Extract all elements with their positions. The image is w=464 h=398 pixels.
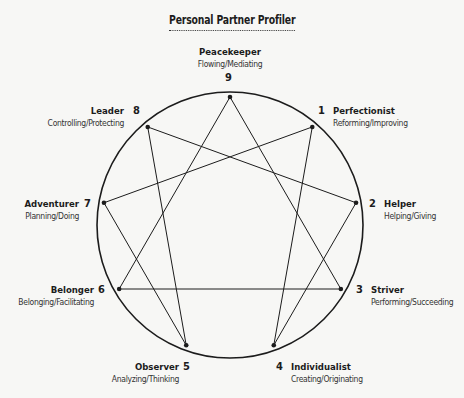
point-2-number: 2: [369, 197, 376, 210]
point-8-label: Leader Controlling/Protecting: [48, 105, 124, 129]
point-desc: Performing/Succeeding: [371, 296, 453, 308]
point-7-dot: [102, 200, 107, 205]
point-desc: Helping/Giving: [384, 210, 436, 222]
point-9-number: 9: [225, 71, 232, 84]
point-4-label: Individualist Creating/Originating: [291, 361, 363, 385]
point-8-dot: [145, 125, 150, 130]
point-5-label: Observer Analyzing/Thinking: [112, 361, 179, 385]
point-name: Peacekeeper: [180, 46, 280, 58]
point-name: Leader: [48, 105, 124, 117]
point-9-dot: [228, 95, 233, 100]
point-name: Perfectionist: [333, 105, 408, 117]
point-2-dot: [354, 200, 359, 205]
outer-circle: [97, 92, 363, 358]
point-7-number: 7: [84, 197, 91, 210]
point-2-label: Helper Helping/Giving: [384, 198, 436, 222]
point-4-dot: [271, 343, 276, 348]
point-7-label: Adventurer Planning/Doing: [24, 198, 79, 222]
point-desc: Reforming/Improving: [333, 117, 408, 129]
point-name: Belonger: [18, 284, 94, 296]
point-desc: Analyzing/Thinking: [112, 373, 179, 385]
point-3-dot: [339, 287, 344, 292]
point-name: Adventurer: [24, 198, 79, 210]
point-6-number: 6: [98, 283, 105, 296]
connection-line-7-1: [104, 127, 312, 203]
point-8-number: 8: [133, 104, 140, 117]
point-name: Observer: [112, 361, 179, 373]
point-5-number: 5: [183, 360, 190, 373]
point-desc: Flowing/Mediating: [180, 58, 280, 70]
point-desc: Creating/Originating: [291, 373, 363, 385]
connection-line-6-9: [119, 97, 230, 289]
point-name: Striver: [371, 284, 453, 296]
point-name: Helper: [384, 198, 436, 210]
point-desc: Controlling/Protecting: [48, 117, 124, 129]
point-name: Individualist: [291, 361, 363, 373]
point-9-label: Peacekeeper Flowing/Mediating: [180, 46, 280, 70]
point-5-dot: [184, 343, 189, 348]
point-4-number: 4: [276, 360, 283, 373]
connection-line-2-8: [148, 127, 356, 203]
connection-line-9-3: [230, 97, 341, 289]
point-3-label: Striver Performing/Succeeding: [371, 284, 453, 308]
point-3-number: 3: [356, 283, 363, 296]
point-desc: Planning/Doing: [24, 210, 79, 222]
point-desc: Belonging/Facilitating: [18, 296, 94, 308]
point-1-label: Perfectionist Reforming/Improving: [333, 105, 408, 129]
point-1-number: 1: [318, 104, 325, 117]
point-6-dot: [117, 287, 122, 292]
point-1-dot: [310, 125, 315, 130]
point-6-label: Belonger Belonging/Facilitating: [18, 284, 94, 308]
